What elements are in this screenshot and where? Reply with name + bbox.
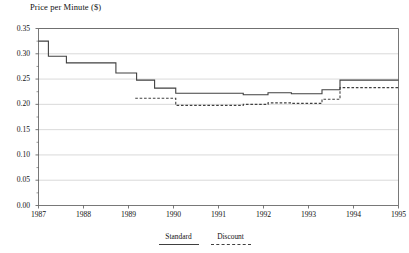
- x-axis-tick-label: 1991: [199, 210, 239, 219]
- y-axis-title: Price per Minute ($): [30, 2, 101, 12]
- x-axis-tick-label: 1987: [19, 210, 59, 219]
- x-axis-tick-label: 1994: [334, 210, 374, 219]
- x-axis-tick-label: 1995: [379, 210, 409, 219]
- x-axis-tick-label: 1989: [109, 210, 149, 219]
- legend-swatch-solid: [159, 242, 199, 246]
- legend-label: Standard: [165, 232, 191, 241]
- x-axis-tick-label: 1990: [154, 210, 194, 219]
- legend-entry-standard: Standard: [159, 232, 199, 246]
- y-axis-tick-label: 0.25: [2, 74, 30, 83]
- y-axis-tick-label: 0.20: [2, 99, 30, 108]
- y-axis-tick-label: 0.35: [2, 24, 30, 33]
- series-line-discount: [135, 88, 398, 106]
- series-line-standard: [39, 41, 399, 95]
- legend-entry-discount: Discount: [211, 232, 251, 246]
- y-axis-tick-label: 0.15: [2, 125, 30, 134]
- y-axis-tick-label: 0.30: [2, 49, 30, 58]
- x-axis-tick-label: 1993: [289, 210, 329, 219]
- chart-legend: StandardDiscount: [0, 232, 409, 246]
- x-axis-tick-label: 1992: [244, 210, 284, 219]
- chart-container: Price per Minute ($) 0.350.300.250.200.1…: [0, 0, 409, 253]
- y-axis-tick-label: 0.00: [2, 201, 30, 210]
- y-axis-tick-label: 0.05: [2, 175, 30, 184]
- x-axis-tick-label: 1988: [64, 210, 104, 219]
- legend-label: Discount: [217, 232, 244, 241]
- y-axis-tick-label: 0.10: [2, 150, 30, 159]
- legend-swatch-dashed: [211, 242, 251, 246]
